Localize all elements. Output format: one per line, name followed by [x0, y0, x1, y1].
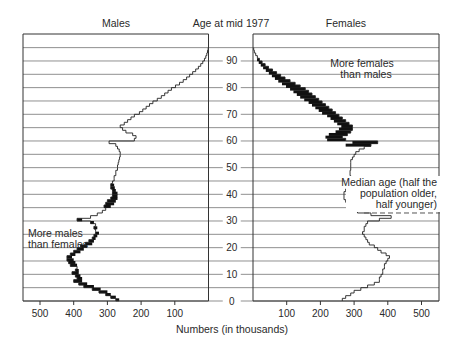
x-tick-label: 200	[133, 308, 150, 319]
header-males: Males	[102, 17, 130, 29]
females-excess-band	[325, 136, 342, 139]
population-pyramid-chart: 500400300200100100200300400500 010203040…	[0, 0, 465, 348]
age-tick-label: 0	[229, 296, 235, 307]
males-excess-band	[112, 189, 115, 192]
x-tick-label: 300	[346, 308, 363, 319]
males-excess-band	[112, 192, 117, 195]
age-tick-label: 50	[226, 162, 238, 173]
annotation-median: half younger)	[376, 198, 437, 210]
x-tick-label: 400	[65, 308, 82, 319]
age-tick-label: 30	[226, 215, 238, 226]
annotation-more-females: than males	[340, 68, 391, 80]
header-females: Females	[326, 17, 366, 29]
annotation-more-males: than females	[28, 238, 88, 250]
x-tick-label: 100	[166, 308, 183, 319]
females-outline	[254, 48, 391, 301]
males-excess-band	[77, 277, 82, 280]
x-tick-label: 400	[379, 308, 396, 319]
age-tick-label: 70	[226, 109, 238, 120]
x-tick-label: 500	[413, 308, 430, 319]
age-tick-label: 10	[226, 269, 238, 280]
males-excess-band	[96, 232, 99, 235]
males-excess-band	[112, 194, 117, 197]
header-age: Age at mid 1977	[193, 17, 270, 29]
age-tick-label: 90	[226, 55, 238, 66]
x-axis-label: Numbers (in thousands)	[176, 323, 288, 335]
x-tick-label: 200	[312, 308, 329, 319]
age-tick-label: 80	[226, 82, 238, 93]
x-tick-label: 500	[32, 308, 49, 319]
age-tick-label: 20	[226, 242, 238, 253]
age-tick-label: 60	[226, 135, 238, 146]
x-tick-label: 100	[278, 308, 295, 319]
x-tick-label: 300	[99, 308, 116, 319]
age-tick-label: 40	[226, 189, 238, 200]
males-outline	[67, 48, 208, 301]
